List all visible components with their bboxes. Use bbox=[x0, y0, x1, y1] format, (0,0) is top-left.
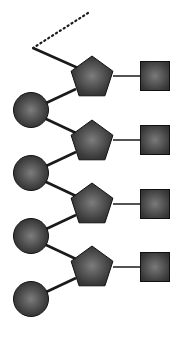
square-node-1[interactable] bbox=[141, 62, 170, 91]
circle-node-3[interactable] bbox=[14, 219, 49, 254]
square-node-4[interactable] bbox=[141, 253, 170, 282]
square-node-2[interactable] bbox=[141, 126, 170, 155]
diagram-canvas bbox=[0, 0, 187, 339]
circle-node-4[interactable] bbox=[14, 282, 49, 317]
square-node-3[interactable] bbox=[141, 190, 170, 219]
circle-node-2[interactable] bbox=[14, 156, 49, 191]
circle-node-1[interactable] bbox=[14, 93, 49, 128]
glycan-structure-svg bbox=[0, 0, 187, 339]
